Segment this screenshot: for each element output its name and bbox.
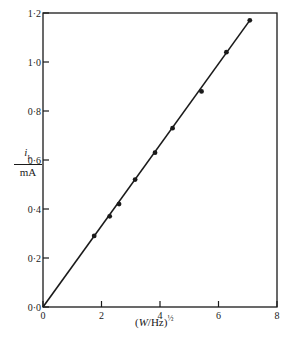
data-point: [117, 202, 122, 207]
y-tick-label: 0·4: [28, 204, 41, 215]
y-tick-label: 0·8: [28, 106, 41, 117]
y-axis-label: iL mA: [14, 146, 42, 178]
y-tick-label: 1·0: [28, 57, 41, 68]
x-tick-label: 0: [41, 310, 46, 321]
x-tick-label: 8: [275, 310, 280, 321]
fit-line: [43, 20, 250, 307]
x-tick-label: 2: [99, 310, 104, 321]
y-axis-unit: mA: [14, 165, 42, 178]
plot-border: [43, 13, 277, 307]
x-tick-label: 6: [216, 310, 221, 321]
data-point: [153, 150, 158, 155]
data-point: [247, 18, 252, 23]
data-point: [199, 89, 204, 94]
x-axis-symbol: W: [139, 316, 148, 328]
data-point: [107, 214, 112, 219]
data-series: [43, 18, 252, 307]
data-point: [224, 50, 229, 55]
y-tick-label: 0·2: [28, 253, 41, 264]
axis-ticks: 024680·00·20·40·60·81·01·2: [28, 8, 280, 322]
data-point: [92, 234, 97, 239]
x-axis-label: (W/Hz)½: [135, 314, 173, 328]
y-axis-subscript: L: [27, 153, 31, 161]
y-tick-label: 0·0: [28, 302, 41, 313]
x-axis-exponent: ½: [167, 314, 173, 323]
data-point: [133, 177, 138, 182]
plot-frame: [43, 13, 277, 307]
x-axis-unit: /Hz): [148, 316, 168, 328]
chart-plot: 024680·00·20·40·60·81·01·2: [0, 0, 288, 339]
y-tick-label: 1·2: [28, 8, 41, 19]
data-point: [170, 126, 175, 131]
